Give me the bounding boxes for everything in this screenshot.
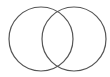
venn-circle-right bbox=[42, 7, 106, 71]
venn-circle-left bbox=[9, 7, 73, 71]
venn-diagram bbox=[0, 0, 110, 77]
venn-svg bbox=[0, 0, 110, 77]
